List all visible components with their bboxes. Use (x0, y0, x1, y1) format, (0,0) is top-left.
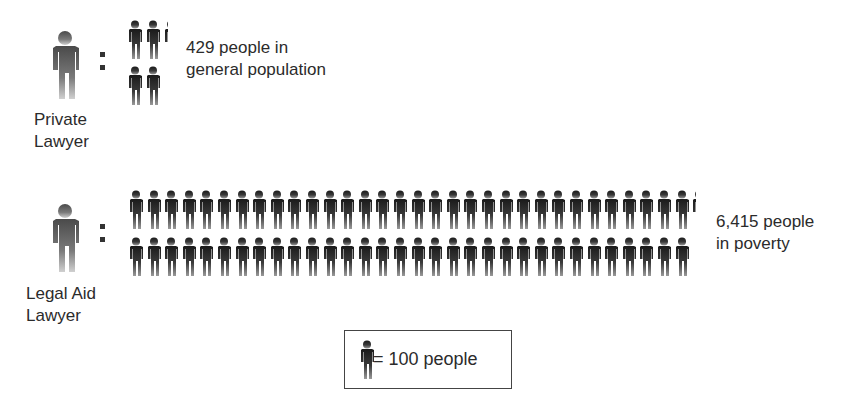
person-icon (322, 190, 339, 230)
person-icon (462, 237, 479, 277)
person-icon (621, 237, 638, 277)
private-lawyer-description: 429 people in general population (186, 37, 326, 81)
person-icon (304, 237, 321, 277)
person-icon (638, 190, 655, 230)
person-icon (127, 20, 144, 60)
person-icon (234, 190, 251, 230)
person-icon (515, 237, 532, 277)
person-icon (146, 190, 163, 230)
person-icon (357, 237, 374, 277)
legend-box: = 100 people (344, 330, 512, 389)
person-icon (427, 237, 444, 277)
person-icon (674, 237, 691, 277)
person-icon (145, 66, 162, 106)
label-line: Lawyer (34, 131, 89, 153)
person-icon (216, 237, 233, 277)
person-icon (638, 237, 655, 277)
person-icon (163, 190, 180, 230)
person-icon (621, 190, 638, 230)
partial-person-icon (163, 20, 168, 60)
private-lawyer-label: Private Lawyer (34, 109, 89, 153)
label-line: Lawyer (26, 305, 96, 327)
desc-line: general population (186, 59, 326, 81)
person-icon (656, 237, 673, 277)
person-icon (181, 237, 198, 277)
person-icon (198, 190, 215, 230)
person-icon (533, 237, 550, 277)
private-lawyer-person-icon (51, 30, 81, 104)
person-icon (163, 237, 180, 277)
desc-line: in poverty (716, 233, 814, 255)
person-icon (462, 190, 479, 230)
person-icon (234, 237, 251, 277)
desc-line: 6,415 people (716, 211, 814, 233)
person-icon (251, 237, 268, 277)
person-icon (128, 190, 145, 230)
person-icon (181, 190, 198, 230)
person-icon (392, 190, 409, 230)
person-icon (339, 237, 356, 277)
person-icon (445, 190, 462, 230)
person-icon (145, 20, 162, 60)
person-icon (269, 237, 286, 277)
person-icon (603, 237, 620, 277)
person-icon (480, 190, 497, 230)
person-icon (550, 237, 567, 277)
person-icon (339, 190, 356, 230)
person-icon (550, 190, 567, 230)
person-icon (603, 190, 620, 230)
person-icon (357, 190, 374, 230)
legal-aid-lawyer-person-icon (51, 203, 81, 277)
person-icon (251, 190, 268, 230)
person-icon (304, 190, 321, 230)
person-icon (269, 190, 286, 230)
person-icon (656, 190, 673, 230)
person-icon (216, 190, 233, 230)
person-icon (128, 237, 145, 277)
legal-aid-lawyer-description: 6,415 people in poverty (716, 211, 814, 255)
person-icon (480, 237, 497, 277)
person-icon (427, 190, 444, 230)
person-icon (498, 190, 515, 230)
person-icon (568, 237, 585, 277)
person-icon (410, 190, 427, 230)
person-icon (586, 190, 603, 230)
person-icon (322, 237, 339, 277)
person-icon (286, 237, 303, 277)
person-icon (515, 190, 532, 230)
label-line: Legal Aid (26, 283, 96, 305)
person-icon (410, 237, 427, 277)
partial-person-icon (691, 190, 696, 230)
person-icon (286, 190, 303, 230)
person-icon (127, 66, 144, 106)
person-icon (374, 237, 391, 277)
legend-text: = 100 people (373, 349, 478, 370)
person-icon (586, 237, 603, 277)
person-icon (392, 237, 409, 277)
person-icon (533, 190, 550, 230)
person-icon (498, 237, 515, 277)
person-icon (146, 237, 163, 277)
person-icon (374, 190, 391, 230)
person-icon (674, 190, 691, 230)
desc-line: 429 people in (186, 37, 326, 59)
label-line: Private (34, 109, 89, 131)
person-icon (198, 237, 215, 277)
person-icon (568, 190, 585, 230)
legal-aid-lawyer-label: Legal Aid Lawyer (26, 283, 96, 327)
person-icon (445, 237, 462, 277)
